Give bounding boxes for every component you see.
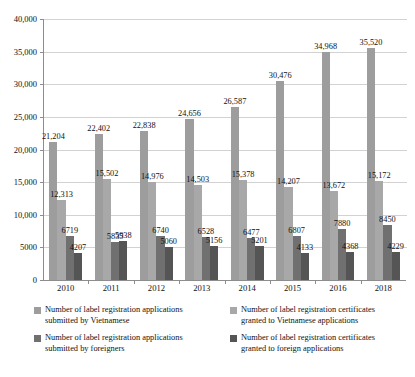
bar: 26,587 xyxy=(231,107,239,280)
bar: 5835 xyxy=(111,242,119,280)
legend-swatch-icon xyxy=(34,307,41,314)
bar-value-label: 15,378 xyxy=(232,170,255,179)
bar-group: 21,20412,31367194207 xyxy=(43,19,88,280)
x-tick-label: 2010 xyxy=(57,283,74,293)
bar-groups: 21,20412,3136719420722,40215,50258355938… xyxy=(43,19,406,280)
bar: 34,968 xyxy=(322,52,330,280)
bar: 4133 xyxy=(301,253,309,280)
legend-label: Number of label registration certificate… xyxy=(241,333,391,354)
bar: 12,313 xyxy=(57,200,65,280)
bar: 4368 xyxy=(346,252,354,281)
bar: 5156 xyxy=(210,246,218,280)
y-tick-label: 0 xyxy=(33,275,37,285)
bar: 24,656 xyxy=(185,119,193,280)
chart-legend: Number of label registration application… xyxy=(34,305,406,367)
bar-value-label: 4133 xyxy=(297,243,314,252)
bar-value-label: 14,207 xyxy=(277,177,300,186)
bar-value-label: 5060 xyxy=(160,237,177,246)
bar-value-label: 13,672 xyxy=(322,181,345,190)
bar: 22,838 xyxy=(140,131,148,280)
y-tick-label: 25,000 xyxy=(14,112,37,122)
bar-group: 30,47614,20768074133 xyxy=(270,19,315,280)
bar: 7880 xyxy=(338,229,346,280)
bar-group: 26,58715,37864775201 xyxy=(225,19,270,280)
bar-value-label: 6807 xyxy=(288,226,305,235)
y-tick-label: 5000 xyxy=(20,242,37,252)
bar: 5060 xyxy=(165,247,173,280)
bar: 35,520 xyxy=(367,48,375,280)
bar-value-label: 8450 xyxy=(379,215,396,224)
bar-value-label: 14,503 xyxy=(186,175,209,184)
y-tick-label: 20,000 xyxy=(14,145,37,155)
y-tick-label: 10,000 xyxy=(14,210,37,220)
bar: 5938 xyxy=(119,241,127,280)
bar-value-label: 5201 xyxy=(251,236,268,245)
legend-swatch-icon xyxy=(34,335,41,342)
bar-value-label: 26,587 xyxy=(223,97,246,106)
bar-value-label: 15,502 xyxy=(96,169,119,178)
legend-item: Number of label registration certificate… xyxy=(230,305,391,326)
bar-value-label: 30,476 xyxy=(269,71,292,80)
legend-item: Number of label registration application… xyxy=(34,333,195,354)
bar-value-label: 6528 xyxy=(198,227,215,236)
x-tick-label: 2018 xyxy=(375,283,392,293)
bar-value-label: 15,172 xyxy=(368,171,391,180)
bar: 5201 xyxy=(255,246,263,280)
bar-value-label: 4207 xyxy=(70,243,87,252)
legend-label: Number of label registration certificate… xyxy=(241,305,391,326)
x-tick-label: 2016 xyxy=(329,283,346,293)
y-axis-labels: 0500010,00015,00020,00025,00030,00035,00… xyxy=(0,19,40,281)
bar: 15,172 xyxy=(375,181,383,280)
y-tick-label: 40,000 xyxy=(14,14,37,24)
bar: 4229 xyxy=(392,252,400,280)
legend-swatch-icon xyxy=(230,307,237,314)
bar-value-label: 7880 xyxy=(334,219,351,228)
bar-value-label: 22,402 xyxy=(87,124,110,133)
bar-value-label: 34,968 xyxy=(314,42,337,51)
y-tick-label: 30,000 xyxy=(14,79,37,89)
x-axis-labels: 20102011201220132014201520162018 xyxy=(43,283,406,299)
bar-group: 34,96813,67278804368 xyxy=(315,19,360,280)
bar: 22,402 xyxy=(95,134,103,280)
bar-chart: 0500010,00015,00020,00025,00030,00035,00… xyxy=(0,0,415,377)
bar-group: 35,52015,17284504229 xyxy=(361,19,406,280)
x-tick-label: 2012 xyxy=(148,283,165,293)
legend-item: Number of label registration certificate… xyxy=(230,333,391,354)
x-tick-label: 2013 xyxy=(193,283,210,293)
bar: 21,204 xyxy=(49,142,57,280)
bar-value-label: 4368 xyxy=(342,242,359,251)
bar-value-label: 6719 xyxy=(61,226,78,235)
bar-value-label: 5156 xyxy=(206,236,223,245)
bar-value-label: 21,204 xyxy=(42,132,65,141)
legend-swatch-icon xyxy=(230,335,237,342)
bar-value-label: 12,313 xyxy=(50,190,73,199)
bar-group: 24,65614,50365285156 xyxy=(179,19,224,280)
y-tick-label: 35,000 xyxy=(14,47,37,57)
bar: 8450 xyxy=(383,225,391,280)
bar: 13,672 xyxy=(330,191,338,280)
bar-group: 22,83814,97667405060 xyxy=(134,19,179,280)
bar-group: 22,40215,50258355938 xyxy=(88,19,133,280)
bar: 15,502 xyxy=(103,179,111,280)
x-tick-label: 2014 xyxy=(239,283,256,293)
bar-value-label: 22,838 xyxy=(133,121,156,130)
legend-label: Number of label registration application… xyxy=(45,333,195,354)
bar-value-label: 35,520 xyxy=(360,38,383,47)
legend-item: Number of label registration application… xyxy=(34,305,195,326)
y-tick-label: 15,000 xyxy=(14,177,37,187)
bar-value-label: 4229 xyxy=(387,242,404,251)
bar-value-label: 14,976 xyxy=(141,172,164,181)
bar-value-label: 24,656 xyxy=(178,109,201,118)
x-tick-label: 2015 xyxy=(284,283,301,293)
legend-label: Number of label registration application… xyxy=(45,305,195,326)
bar-value-label: 6740 xyxy=(152,226,169,235)
y-tick xyxy=(40,280,44,281)
x-tick-label: 2011 xyxy=(103,283,120,293)
bar: 4207 xyxy=(74,253,82,280)
bar-value-label: 5938 xyxy=(115,231,132,240)
